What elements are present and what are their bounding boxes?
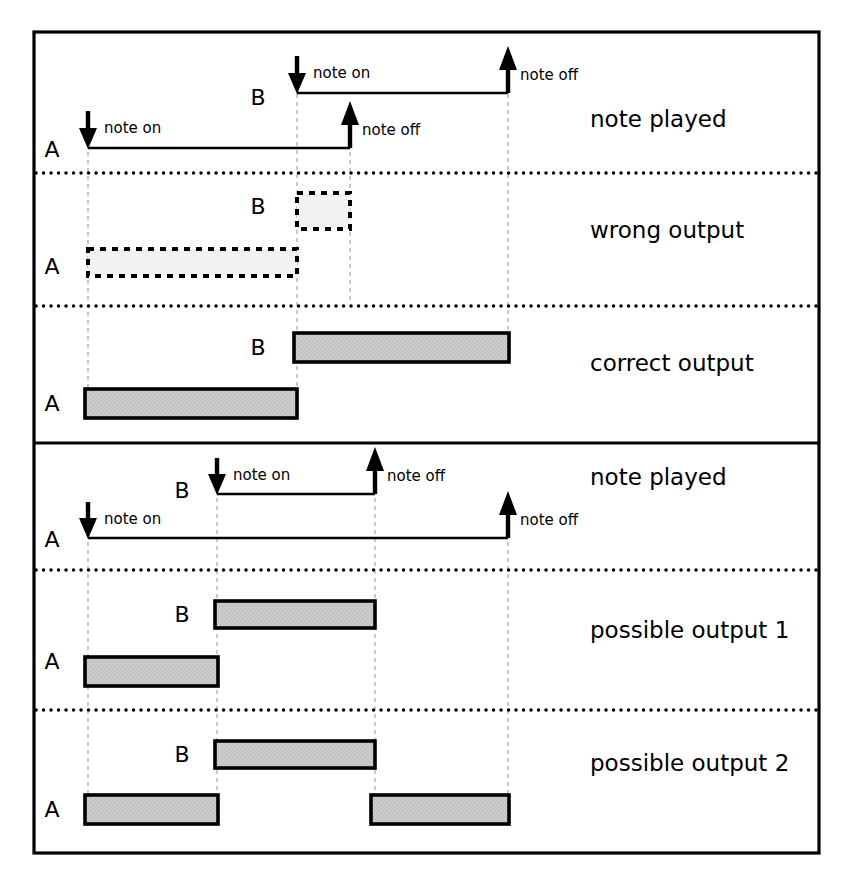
note-bar-a1-possible-output-2 [85, 795, 218, 824]
note-bar-b-possible-output-2 [215, 741, 375, 768]
track-label-b-possible-output-1: B [174, 602, 189, 627]
track-label-a-note-played-bottom: A [44, 527, 59, 552]
event-label-note-off-a-bottom: note off [520, 511, 579, 529]
figure-root: B note on note off A note on [0, 0, 851, 885]
midi-note-timing-diagram: B note on note off A note on [0, 0, 851, 885]
event-label-note-on-a-bottom: note on [104, 510, 161, 528]
event-label-note-off-b-bottom: note off [387, 467, 446, 485]
note-bar-a-possible-output-1 [85, 657, 218, 686]
track-label-a-possible-output-1: A [44, 649, 59, 674]
section-label-wrong-output: wrong output [590, 217, 744, 243]
section-label-note-played-bottom: note played [590, 464, 727, 490]
note-bar-a2-possible-output-2 [371, 795, 509, 824]
section-label-possible-output-1: possible output 1 [590, 617, 789, 643]
track-label-b-wrong-output: B [250, 194, 265, 219]
event-label-note-on-b-top: note on [313, 64, 370, 82]
track-label-b-note-played-top: B [250, 85, 265, 110]
track-label-a-possible-output-2: A [44, 797, 59, 822]
event-label-note-off-a-top: note off [362, 121, 421, 139]
event-label-note-on-b-bottom: note on [233, 466, 290, 484]
event-label-note-on-a-top: note on [104, 119, 161, 137]
note-box-b-wrong-output [297, 193, 350, 229]
event-label-note-off-b-top: note off [520, 66, 579, 84]
note-bar-b-possible-output-1 [215, 601, 375, 628]
note-bar-b-correct-output [294, 333, 509, 362]
section-label-correct-output: correct output [590, 350, 754, 376]
note-box-a-wrong-output [88, 249, 297, 276]
track-label-b-note-played-bottom: B [174, 478, 189, 503]
section-label-possible-output-2: possible output 2 [590, 750, 789, 776]
track-label-a-correct-output: A [44, 391, 59, 416]
track-label-b-possible-output-2: B [174, 742, 189, 767]
track-label-b-correct-output: B [250, 335, 265, 360]
note-bar-a-correct-output [85, 389, 297, 418]
track-label-a-note-played-top: A [44, 137, 59, 162]
section-label-note-played-top: note played [590, 106, 727, 132]
track-label-a-wrong-output: A [44, 254, 59, 279]
